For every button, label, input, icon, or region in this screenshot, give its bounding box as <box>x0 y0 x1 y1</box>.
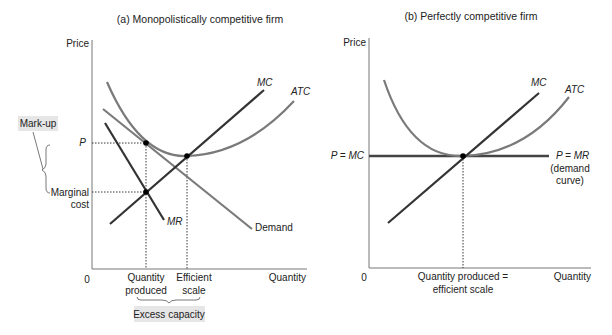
efficient-scale-label-2: scale <box>182 285 206 296</box>
demand-curve-label-1: (demand <box>550 163 589 174</box>
panel-a-y-label: Price <box>66 38 89 49</box>
mc-label-b: MC <box>531 77 547 88</box>
panel-b: (b) Perfectly competitive firm Price 0 Q… <box>331 10 591 295</box>
marginal-cost-label-2: cost <box>71 199 90 210</box>
panel-a-title: (a) Monopolistically competitive firm <box>117 13 284 25</box>
chart-canvas: (a) Monopolistically competitive firm Pr… <box>0 0 612 335</box>
qty-efficient-label-1: Quantity produced = <box>418 271 508 282</box>
panel-b-origin: 0 <box>361 272 367 283</box>
excess-capacity-brace <box>137 297 200 303</box>
markup-pointer <box>33 132 43 169</box>
p-label: P <box>79 137 86 148</box>
demand-label: Demand <box>255 222 293 233</box>
atc-label-a: ATC <box>290 86 311 97</box>
panel-b-x-label: Quantity <box>554 271 591 282</box>
markup-label: Mark-up <box>20 118 57 129</box>
demand-curve-label-2: curve) <box>556 175 584 186</box>
marginal-cost-label-1: Marginal <box>51 187 89 198</box>
qty-produced-label-2: produced <box>125 285 167 296</box>
price-point <box>143 140 149 146</box>
excess-capacity-label: Excess capacity <box>133 309 205 320</box>
qty-efficient-label-2: efficient scale <box>433 284 494 295</box>
atc-label-b: ATC <box>564 84 585 95</box>
panel-b-title: (b) Perfectly competitive firm <box>404 10 537 22</box>
mr-curve <box>105 123 164 220</box>
qty-produced-label-1: Quantity <box>127 272 164 283</box>
atc-curve-b <box>384 80 569 156</box>
panel-a-x-label: Quantity <box>269 272 306 283</box>
panel-b-y-label: Price <box>343 37 366 48</box>
p-mc-label: P = MC <box>331 150 365 161</box>
panel-a-origin: 0 <box>84 274 90 285</box>
equilibrium-point <box>460 153 466 159</box>
mc-label-a: MC <box>257 77 273 88</box>
mc-mr-point <box>143 189 149 195</box>
efficient-scale-label-1: Efficient <box>176 272 212 283</box>
p-mr-label: P = MR <box>556 150 589 161</box>
markup-brace <box>42 145 50 193</box>
efficient-scale-point <box>184 153 190 159</box>
mr-label: MR <box>167 216 183 227</box>
panel-a: (a) Monopolistically competitive firm Pr… <box>18 13 311 322</box>
